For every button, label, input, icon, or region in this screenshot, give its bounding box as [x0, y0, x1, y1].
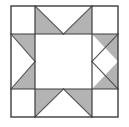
sawtooth-star-quilt-block: Sawtooth Star quilt block Eight-pointed …	[0, 0, 129, 127]
center-square	[35, 34, 92, 89]
corner-bottom-right	[92, 89, 118, 117]
corner-top-left	[11, 6, 35, 34]
corner-top-right	[92, 6, 118, 34]
quilt-block-canvas: Sawtooth Star quilt block Eight-pointed …	[0, 0, 129, 127]
corner-bottom-left	[11, 89, 35, 117]
